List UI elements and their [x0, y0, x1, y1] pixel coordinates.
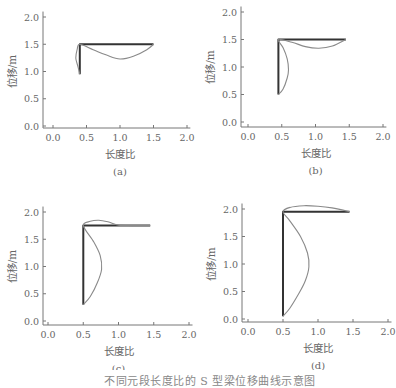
x-axis-title: 长度比 — [104, 345, 134, 357]
axes: 0.00.51.01.52.00.00.51.01.52.0长度比位移/m(c) — [6, 207, 197, 371]
axes: 0.00.51.01.52.00.00.51.01.52.0长度比位移/m(b) — [204, 7, 391, 177]
deformed-curve-line — [76, 44, 154, 74]
y-axis-title: 位移/m — [6, 55, 18, 89]
panel-a: 0.00.51.01.52.00.00.51.01.52.0长度比位移/m(a) — [0, 0, 200, 185]
figure-caption: 不同元段长度比的 S 型梁位移曲线示意图 — [60, 372, 360, 388]
x-tick-label: 0.5 — [79, 132, 94, 143]
x-tick-label: 2.0 — [375, 131, 390, 142]
x-tick-label: 0.5 — [76, 329, 91, 340]
y-tick-label: 0.0 — [24, 121, 39, 132]
y-tick-label: 1.0 — [24, 66, 39, 77]
x-axis-title: 长度比 — [303, 342, 333, 354]
x-tick-label: 2.0 — [181, 329, 196, 340]
y-tick-label: 0.0 — [222, 117, 237, 128]
deformed-curve-line — [283, 206, 350, 317]
x-tick-label: 1.5 — [345, 326, 360, 337]
x-tick-label: 0.5 — [274, 131, 289, 142]
chart-a: 0.00.51.01.52.00.00.51.01.52.0长度比位移/m(a) — [0, 0, 200, 185]
x-tick-label: 1.0 — [308, 131, 323, 142]
y-tick-label: 2.0 — [223, 204, 238, 215]
y-tick-label: 2.0 — [222, 7, 237, 18]
x-tick-label: 0.0 — [240, 326, 255, 337]
y-tick-label: 0.0 — [24, 316, 39, 327]
x-tick-label: 2.0 — [179, 132, 194, 143]
y-tick-label: 1.0 — [24, 261, 39, 272]
deformed-curve-line — [278, 39, 346, 94]
chart-d: 0.00.51.01.52.00.00.51.01.52.0长度比位移/m(d) — [196, 185, 396, 370]
y-axis-title: 位移/m — [205, 247, 217, 281]
x-tick-label: 1.0 — [310, 326, 325, 337]
y-tick-label: 1.5 — [24, 234, 39, 245]
axes: 0.00.51.01.52.00.00.51.01.52.0长度比位移/m(d) — [205, 204, 396, 371]
y-tick-label: 0.5 — [223, 286, 238, 297]
y-tick-label: 0.5 — [24, 93, 39, 104]
x-tick-label: 2.0 — [380, 326, 395, 337]
x-tick-label: 1.0 — [111, 329, 126, 340]
panel-c: 0.00.51.01.52.00.00.51.01.52.0长度比位移/m(c) — [0, 185, 200, 370]
chart-b: 0.00.51.01.52.00.00.51.01.52.0长度比位移/m(b) — [196, 0, 396, 185]
panel-label: (d) — [311, 360, 325, 370]
x-tick-label: 1.0 — [112, 132, 127, 143]
undeformed-beam-line — [83, 226, 150, 305]
y-tick-label: 1.0 — [222, 62, 237, 73]
undeformed-beam-line — [283, 212, 350, 316]
y-tick-label: 1.5 — [222, 34, 237, 45]
y-tick-label: 0.0 — [223, 314, 238, 325]
chart-c: 0.00.51.01.52.00.00.51.01.52.0长度比位移/m(c) — [0, 185, 200, 370]
y-axis-title: 位移/m — [204, 50, 216, 84]
y-tick-label: 0.5 — [24, 288, 39, 299]
y-axis-title: 位移/m — [6, 250, 18, 284]
y-tick-label: 1.5 — [223, 231, 238, 242]
x-tick-label: 0.0 — [240, 131, 255, 142]
panel-d: 0.00.51.01.52.00.00.51.01.52.0长度比位移/m(d) — [196, 185, 396, 370]
y-tick-label: 1.0 — [223, 259, 238, 270]
x-tick-label: 0.0 — [45, 132, 60, 143]
x-axis-title: 长度比 — [105, 148, 135, 160]
y-tick-label: 2.0 — [24, 207, 39, 218]
x-tick-label: 1.5 — [146, 132, 161, 143]
x-axis-title: 长度比 — [301, 147, 331, 159]
y-tick-label: 0.5 — [222, 89, 237, 100]
x-tick-label: 1.5 — [146, 329, 161, 340]
x-tick-label: 1.5 — [342, 131, 357, 142]
y-tick-label: 1.5 — [24, 39, 39, 50]
panel-label: (c) — [112, 363, 126, 370]
deformed-curve-line — [83, 220, 150, 305]
y-tick-label: 2.0 — [24, 12, 39, 23]
panel-b: 0.00.51.01.52.00.00.51.01.52.0长度比位移/m(b) — [196, 0, 396, 185]
panel-label: (b) — [308, 165, 322, 176]
axes: 0.00.51.01.52.00.00.51.01.52.0长度比位移/m(a) — [6, 12, 195, 178]
x-tick-label: 0.0 — [40, 329, 55, 340]
panel-label: (a) — [113, 166, 127, 177]
x-tick-label: 0.5 — [275, 326, 290, 337]
